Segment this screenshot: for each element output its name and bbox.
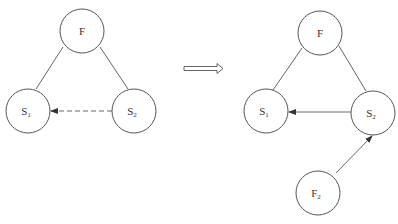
edge-f-s2-left — [100, 47, 128, 89]
node-label: F — [79, 25, 85, 37]
node-subscript: 1 — [265, 111, 269, 119]
node-subscript: 2 — [133, 111, 137, 119]
right-diagram: F S1 S2 F2 — [244, 11, 395, 215]
edge-f-s2-right — [339, 46, 366, 91]
node-s1-left: S1 — [6, 89, 50, 133]
node-s2-left: S2 — [112, 89, 156, 133]
node-s2-right: S2 — [351, 91, 395, 135]
node-subscript: 1 — [27, 111, 31, 119]
transition-arrow-icon — [184, 64, 223, 74]
arrow-f2-s2 — [336, 136, 372, 173]
svg-text:F: F — [317, 27, 323, 39]
node-f-left: F — [60, 9, 104, 53]
node-subscript: 2 — [372, 113, 376, 121]
node-f-right: F — [298, 11, 342, 55]
diagram-canvas: F S1 S2 F S1 S2 — [0, 0, 398, 224]
svg-text:F: F — [79, 25, 85, 37]
edge-f-s1-right — [273, 48, 302, 90]
node-label: F — [317, 27, 323, 39]
node-f2-right: F2 — [296, 171, 340, 215]
edge-f-s1-left — [36, 47, 63, 89]
left-diagram: F S1 S2 — [6, 9, 156, 133]
node-s1-right: S1 — [244, 89, 288, 133]
node-subscript: 2 — [317, 193, 321, 201]
